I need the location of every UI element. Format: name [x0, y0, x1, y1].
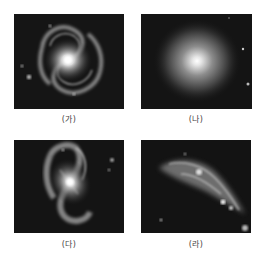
panel-label-da: (다)	[39, 238, 99, 249]
panel-label-ra: (라)	[166, 238, 226, 249]
panel-label-ga: (가)	[39, 113, 99, 124]
panel-label-na: (나)	[166, 113, 226, 124]
galaxy-image-irregular	[141, 140, 251, 233]
galaxy-image-spiral	[14, 14, 124, 109]
galaxy-image-barred-spiral	[14, 140, 124, 233]
galaxy-image-elliptical	[141, 14, 252, 109]
